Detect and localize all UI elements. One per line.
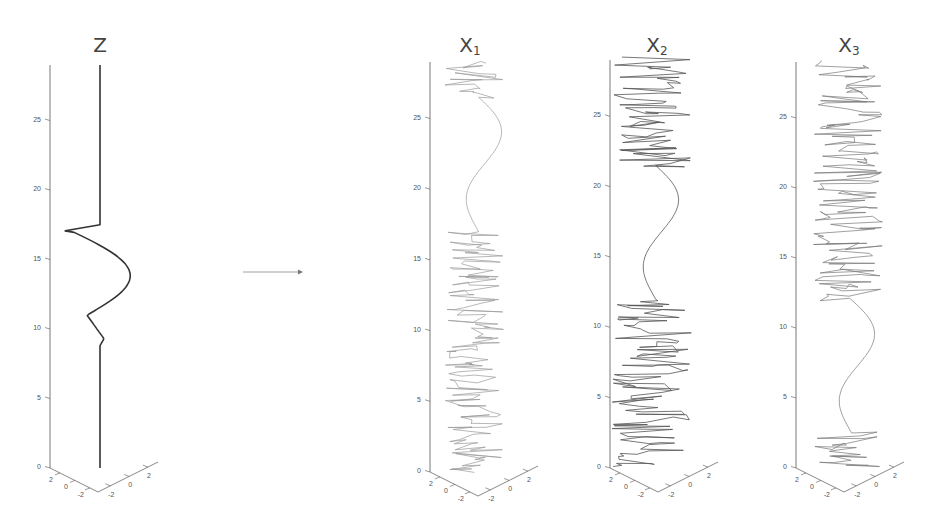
z-tick-label: 5	[783, 393, 787, 400]
z-tick-label: 10	[779, 323, 787, 330]
series-line	[813, 61, 882, 467]
y-tick-label: 2	[707, 472, 711, 479]
z-tick-label: 0	[37, 463, 41, 470]
x-tick-label: 2	[795, 476, 799, 483]
y-tick-label: 2	[147, 472, 151, 479]
z-tick-label: 25	[33, 116, 41, 123]
panel-x3: 051015202520-2-202X3	[779, 33, 904, 498]
y-tick-label: 0	[508, 485, 512, 492]
x-tick-label: 2	[429, 480, 433, 487]
panel-title: X3	[838, 33, 859, 58]
x-tick-label: -2	[458, 495, 464, 502]
z-tick-label: 20	[779, 183, 787, 190]
z-tick-label: 15	[33, 255, 41, 262]
z-tick-label: 15	[413, 255, 421, 262]
x-tick-label: 0	[444, 487, 448, 494]
panel-title: Z	[93, 33, 107, 57]
floor-axis-left	[430, 472, 478, 496]
z-tick-label: 5	[417, 396, 421, 403]
y-tick-label: -2	[488, 495, 494, 502]
y-tick-label: 0	[688, 481, 692, 488]
z-tick-label: 10	[33, 324, 41, 331]
series-line	[445, 61, 503, 472]
z-tick-label: 15	[779, 253, 787, 260]
x-tick-label: -2	[638, 491, 644, 498]
z-tick-label: 0	[783, 463, 787, 470]
floor-axis-left	[50, 468, 98, 492]
z-tick-label: 10	[593, 322, 601, 329]
x-tick-label: -2	[78, 491, 84, 498]
y-tick-label: 0	[128, 481, 132, 488]
x-tick-label: 2	[609, 476, 613, 483]
arrow-icon	[243, 270, 303, 275]
z-tick-label: 15	[593, 252, 601, 259]
figure-canvas: 051015202520-2-202Z051015202520-2-202X10…	[0, 0, 938, 523]
y-tick-label: 2	[527, 476, 531, 483]
z-tick-label: 20	[33, 185, 41, 192]
floor-axis-left	[796, 468, 844, 492]
z-tick-label: 25	[779, 113, 787, 120]
y-tick-label: 0	[874, 481, 878, 488]
panel-x1: 051015202520-2-202X1	[413, 33, 538, 502]
panel-x2: 051015202520-2-202X2	[593, 33, 718, 498]
z-tick-label: 10	[413, 326, 421, 333]
z-tick-label: 5	[597, 393, 601, 400]
x-tick-label: 0	[624, 483, 628, 490]
y-tick-label: -2	[108, 491, 114, 498]
panel-z: 051015202520-2-202Z	[33, 33, 158, 498]
x-tick-label: 2	[49, 476, 53, 483]
z-tick-label: 5	[37, 394, 41, 401]
series-line	[612, 57, 691, 466]
x-tick-label: 0	[64, 483, 68, 490]
x-tick-label: 0	[810, 483, 814, 490]
z-tick-label: 25	[413, 114, 421, 121]
y-tick-label: 2	[893, 472, 897, 479]
series-line	[65, 65, 130, 468]
z-tick-label: 25	[593, 111, 601, 118]
z-tick-label: 0	[417, 467, 421, 474]
panel-title: X2	[646, 33, 667, 58]
z-tick-label: 20	[593, 182, 601, 189]
z-tick-label: 0	[597, 463, 601, 470]
floor-axis-left	[610, 468, 658, 492]
panel-title: X1	[459, 33, 480, 58]
y-tick-label: -2	[668, 491, 674, 498]
y-tick-label: -2	[854, 491, 860, 498]
x-tick-label: -2	[824, 491, 830, 498]
z-tick-label: 20	[413, 184, 421, 191]
